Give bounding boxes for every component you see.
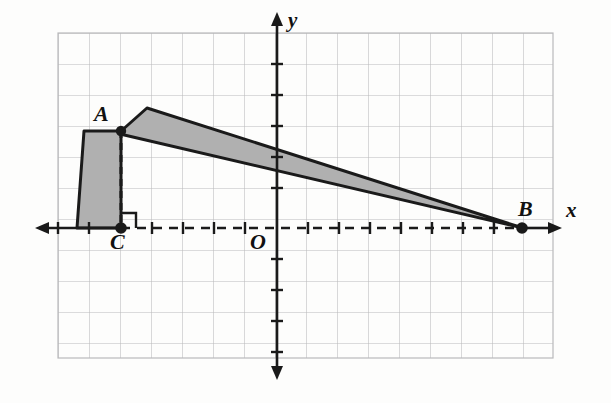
point-A-marker [116, 126, 126, 136]
point-B-marker [516, 222, 528, 234]
x-axis-label: x [566, 200, 577, 221]
point-label-C: C [110, 231, 125, 253]
grid [58, 33, 553, 358]
coordinate-figure: A B C O x y [0, 0, 611, 403]
y-axis-label: y [288, 10, 297, 31]
origin-label: O [250, 231, 266, 253]
point-label-B: B [518, 198, 533, 220]
point-label-A: A [94, 103, 109, 125]
